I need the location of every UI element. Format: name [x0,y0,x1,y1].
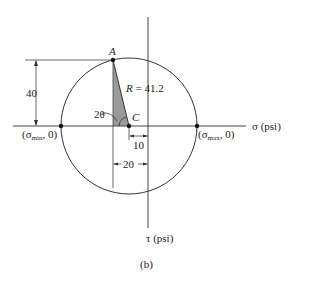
label-radius: R = 41.2 [126,83,164,94]
label-height: 40 [26,88,37,99]
point-A [111,58,115,62]
label-tau-axis: τ (psi) [146,233,173,244]
label-sigma-axis: σ (psi) [252,121,281,132]
label-center-offset: 10 [133,140,144,151]
label-sigma-min: (σmin, 0) [22,129,57,142]
point-C [127,124,131,128]
caption: (b) [140,259,153,270]
label-sigma-max: (σmax, 0) [198,129,234,142]
label-angle: 2θ [94,109,105,120]
label-C: C [132,112,139,123]
label-A-offset: 20 [123,159,134,170]
point-sigma-min [59,124,63,128]
label-A: A [109,46,116,57]
